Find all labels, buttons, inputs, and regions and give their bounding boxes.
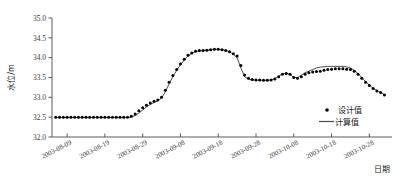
data-point (168, 81, 171, 84)
data-point (239, 64, 242, 67)
data-point (217, 48, 220, 51)
data-point (141, 106, 144, 109)
y-axis-tick-label: 33.0 (33, 93, 46, 102)
data-point (300, 75, 303, 78)
data-point (236, 55, 239, 58)
data-point (266, 79, 269, 82)
data-point (262, 79, 265, 82)
data-point (379, 91, 382, 94)
legend-label-design-value: 设计值 (338, 105, 362, 115)
data-point (100, 116, 103, 119)
data-point (270, 78, 273, 81)
data-point (319, 70, 322, 73)
data-point (304, 73, 307, 76)
x-axis-tick-label: 2003-08-29 (116, 138, 149, 160)
data-point (130, 115, 133, 118)
data-point (134, 112, 137, 115)
data-point (115, 116, 118, 119)
data-point (368, 84, 371, 87)
data-point (360, 77, 363, 80)
x-axis-title: 日期 (374, 165, 390, 174)
data-point (111, 116, 114, 119)
data-point (258, 78, 261, 81)
data-point (375, 89, 378, 92)
data-point (349, 68, 352, 71)
data-point (145, 104, 148, 107)
data-point (137, 109, 140, 112)
data-point (277, 75, 280, 78)
data-point (69, 116, 72, 119)
x-axis-tick-label: 2003-09-08 (154, 138, 187, 160)
data-point (54, 116, 57, 119)
x-axis-tick-label: 2003-09-18 (191, 138, 224, 160)
data-point (205, 49, 208, 52)
legend-label-calculated-value: 计算值 (335, 117, 359, 127)
chart-canvas: 32.032.533.033.534.034.535.02003-08-0920… (0, 0, 400, 178)
data-point (307, 71, 310, 74)
data-point (66, 116, 69, 119)
data-point (232, 52, 235, 55)
data-point (85, 116, 88, 119)
data-point (202, 49, 205, 52)
y-axis-tick-label: 35.0 (33, 14, 46, 23)
x-axis-tick-label: 2003-10-08 (267, 138, 300, 160)
x-axis-tick-label: 2003-08-19 (78, 138, 111, 160)
data-point (164, 89, 167, 92)
data-point (103, 116, 106, 119)
data-point (330, 68, 333, 71)
y-axis-tick-label: 32.0 (33, 133, 46, 142)
data-point (175, 68, 178, 71)
data-point (357, 73, 360, 76)
data-point (149, 101, 152, 104)
legend-marker-dot-icon (325, 108, 329, 112)
data-point (190, 51, 193, 54)
data-point (153, 100, 156, 103)
data-point (179, 63, 182, 66)
data-point (77, 116, 80, 119)
data-point (251, 78, 254, 81)
x-axis-tick-label: 2003-10-18 (305, 138, 338, 160)
y-axis-title: 水位/m (6, 64, 16, 91)
data-point (285, 72, 288, 75)
y-axis-tick-label: 32.5 (33, 113, 46, 122)
data-point (372, 87, 375, 90)
data-point (119, 116, 122, 119)
data-point (194, 50, 197, 53)
data-point (323, 69, 326, 72)
data-point (345, 68, 348, 71)
data-point (292, 76, 295, 79)
data-point (58, 116, 61, 119)
data-point (62, 116, 65, 119)
data-point (289, 73, 292, 76)
y-axis-tick-label: 34.5 (33, 34, 46, 43)
chart-legend: 设计值计算值 (319, 105, 362, 127)
data-point (273, 78, 276, 81)
data-point (334, 67, 337, 70)
data-point (255, 78, 258, 81)
data-point (160, 96, 163, 99)
data-point (383, 93, 386, 96)
series-points-design (54, 48, 386, 119)
data-point (198, 49, 201, 52)
data-point (224, 49, 227, 52)
data-point (221, 48, 224, 51)
data-point (122, 116, 125, 119)
data-point (73, 116, 76, 119)
y-axis-tick-label: 34.0 (33, 53, 46, 62)
data-point (338, 67, 341, 70)
data-point (156, 99, 159, 102)
data-point (213, 48, 216, 51)
data-point (364, 81, 367, 84)
data-point (228, 50, 231, 53)
data-point (341, 67, 344, 70)
data-point (296, 77, 299, 80)
water-level-chart: 32.032.533.033.534.034.535.02003-08-0920… (0, 0, 400, 178)
data-point (315, 70, 318, 73)
data-point (187, 54, 190, 57)
data-point (281, 73, 284, 76)
series-line-calculated (56, 49, 385, 117)
data-point (247, 77, 250, 80)
data-point (353, 70, 356, 73)
data-point (126, 116, 129, 119)
data-point (243, 74, 246, 77)
